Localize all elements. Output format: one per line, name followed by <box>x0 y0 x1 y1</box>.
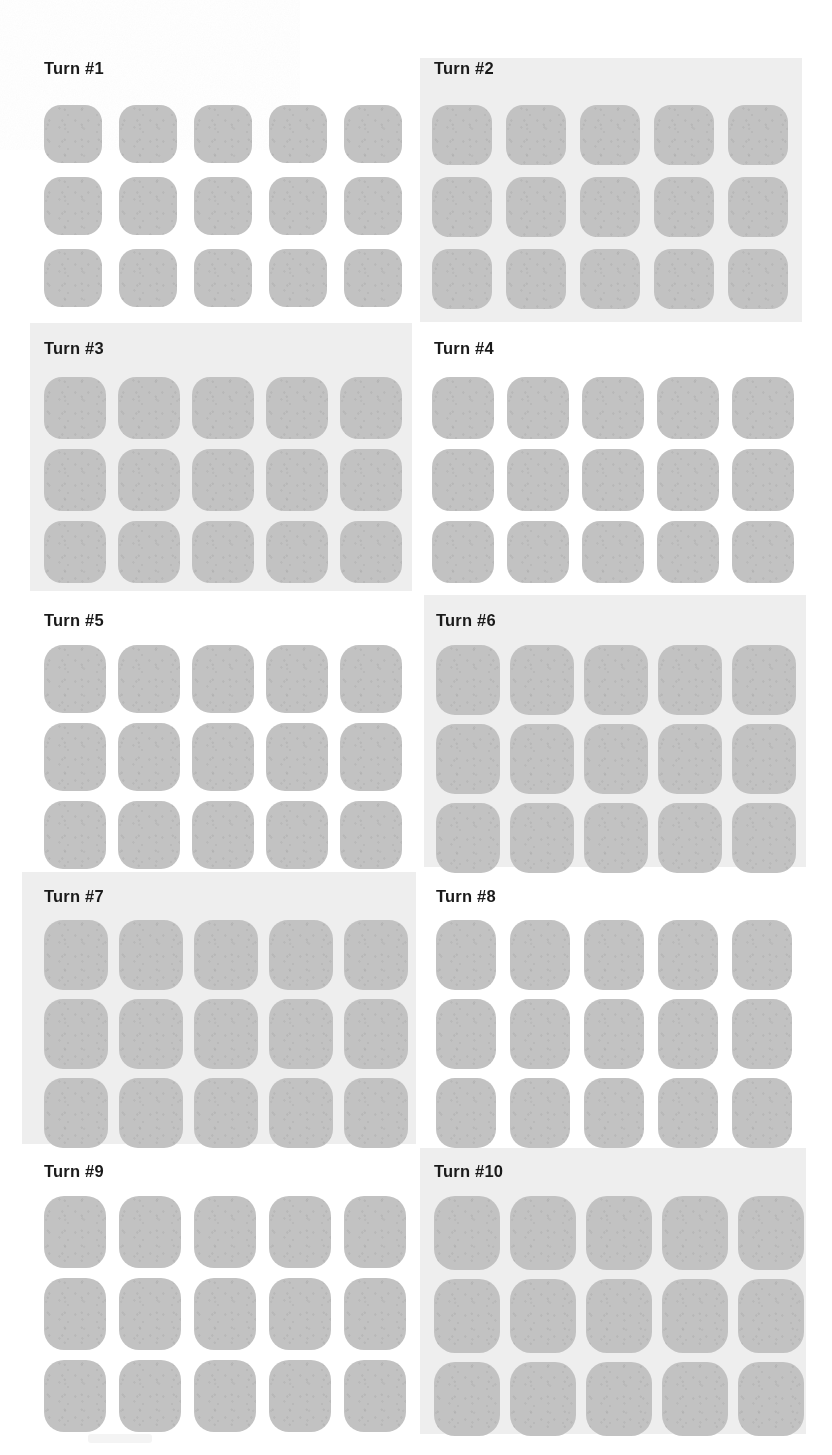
tile[interactable] <box>732 999 792 1069</box>
tile[interactable] <box>344 1360 406 1432</box>
tile[interactable] <box>344 1078 408 1148</box>
tile[interactable] <box>194 249 252 307</box>
tile[interactable] <box>119 1196 181 1268</box>
tile[interactable] <box>584 724 648 794</box>
tile[interactable] <box>44 1196 106 1268</box>
tile[interactable] <box>506 105 566 165</box>
tile[interactable] <box>434 1279 500 1353</box>
tile[interactable] <box>732 521 794 583</box>
tile[interactable] <box>506 249 566 309</box>
tile[interactable] <box>662 1362 728 1436</box>
tile[interactable] <box>507 377 569 439</box>
tile[interactable] <box>44 105 102 163</box>
tile[interactable] <box>192 377 254 439</box>
tile[interactable] <box>510 1078 570 1148</box>
tile[interactable] <box>506 177 566 237</box>
tile[interactable] <box>119 177 177 235</box>
tile[interactable] <box>582 521 644 583</box>
tile[interactable] <box>344 177 402 235</box>
tile[interactable] <box>266 449 328 511</box>
tile[interactable] <box>44 999 108 1069</box>
tile[interactable] <box>269 105 327 163</box>
tile[interactable] <box>510 1196 576 1270</box>
tile[interactable] <box>432 177 492 237</box>
tile[interactable] <box>118 645 180 713</box>
tile[interactable] <box>269 1196 331 1268</box>
tile[interactable] <box>119 249 177 307</box>
tile[interactable] <box>586 1362 652 1436</box>
tile[interactable] <box>510 1362 576 1436</box>
tile[interactable] <box>584 645 648 715</box>
tile[interactable] <box>436 920 496 990</box>
tile[interactable] <box>269 1360 331 1432</box>
tile[interactable] <box>436 1078 496 1148</box>
tile[interactable] <box>119 105 177 163</box>
tile[interactable] <box>580 105 640 165</box>
tile[interactable] <box>192 521 254 583</box>
tile[interactable] <box>510 645 574 715</box>
tile[interactable] <box>432 105 492 165</box>
tile[interactable] <box>192 801 254 869</box>
tile[interactable] <box>119 1078 183 1148</box>
tile[interactable] <box>654 249 714 309</box>
tile[interactable] <box>436 999 496 1069</box>
tile[interactable] <box>194 105 252 163</box>
tile[interactable] <box>436 803 500 873</box>
tile[interactable] <box>657 521 719 583</box>
tile[interactable] <box>732 449 794 511</box>
tile[interactable] <box>510 803 574 873</box>
tile[interactable] <box>584 920 644 990</box>
tile[interactable] <box>44 920 108 990</box>
tile[interactable] <box>194 177 252 235</box>
tile[interactable] <box>340 645 402 713</box>
tile[interactable] <box>658 803 722 873</box>
tile[interactable] <box>662 1279 728 1353</box>
tile[interactable] <box>119 920 183 990</box>
tile[interactable] <box>658 920 718 990</box>
tile[interactable] <box>118 801 180 869</box>
tile[interactable] <box>44 1078 108 1148</box>
tile[interactable] <box>728 105 788 165</box>
tile[interactable] <box>44 723 106 791</box>
tile[interactable] <box>269 1078 333 1148</box>
tile[interactable] <box>44 1278 106 1350</box>
tile[interactable] <box>44 449 106 511</box>
tile[interactable] <box>510 724 574 794</box>
tile[interactable] <box>586 1279 652 1353</box>
tile[interactable] <box>194 999 258 1069</box>
tile[interactable] <box>192 645 254 713</box>
tile[interactable] <box>432 249 492 309</box>
tile[interactable] <box>269 1278 331 1350</box>
tile[interactable] <box>657 449 719 511</box>
tile[interactable] <box>732 377 794 439</box>
tile[interactable] <box>266 801 328 869</box>
tile[interactable] <box>434 1362 500 1436</box>
tile[interactable] <box>507 449 569 511</box>
tile[interactable] <box>584 999 644 1069</box>
tile[interactable] <box>119 999 183 1069</box>
tile[interactable] <box>192 723 254 791</box>
tile[interactable] <box>507 521 569 583</box>
tile[interactable] <box>119 1278 181 1350</box>
tile[interactable] <box>584 803 648 873</box>
tile[interactable] <box>194 1196 256 1268</box>
tile[interactable] <box>586 1196 652 1270</box>
tile[interactable] <box>344 1278 406 1350</box>
tile[interactable] <box>266 377 328 439</box>
tile[interactable] <box>432 449 494 511</box>
tile[interactable] <box>580 249 640 309</box>
tile[interactable] <box>732 920 792 990</box>
tile[interactable] <box>269 920 333 990</box>
tile[interactable] <box>344 249 402 307</box>
tile[interactable] <box>434 1196 500 1270</box>
tile[interactable] <box>192 449 254 511</box>
tile[interactable] <box>340 801 402 869</box>
tile[interactable] <box>584 1078 644 1148</box>
tile[interactable] <box>732 803 796 873</box>
tile[interactable] <box>118 521 180 583</box>
tile[interactable] <box>118 377 180 439</box>
tile[interactable] <box>266 645 328 713</box>
tile[interactable] <box>738 1279 804 1353</box>
tile[interactable] <box>340 521 402 583</box>
tile[interactable] <box>194 1078 258 1148</box>
